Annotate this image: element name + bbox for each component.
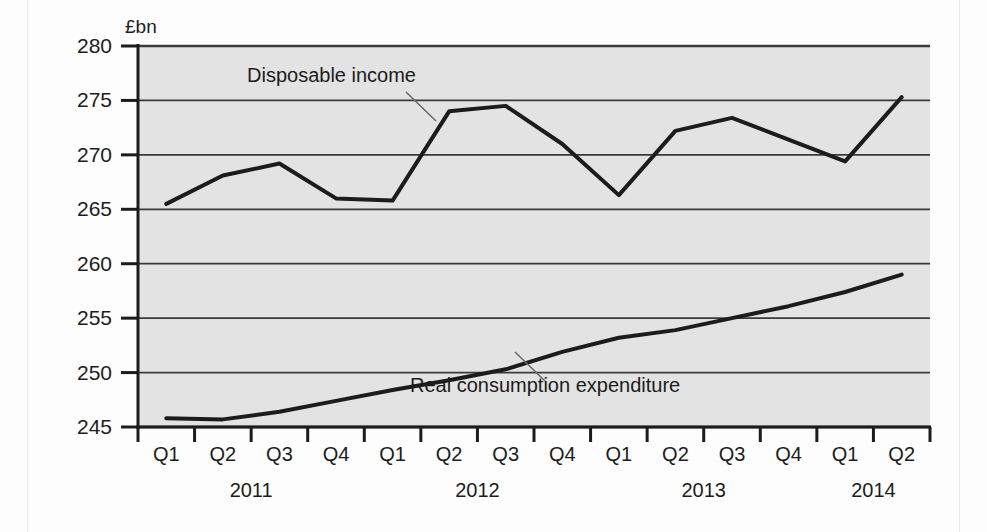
- y-axis-tick-label: 275: [77, 88, 112, 111]
- chart-page: 245250255260265270275280 £bn Q1Q2Q3Q4Q1Q…: [0, 0, 987, 532]
- annotation-label: Real consumption expenditure: [410, 374, 680, 396]
- x-axis-quarter-label: Q2: [210, 443, 237, 465]
- y-axis-tick-label: 255: [77, 306, 112, 329]
- x-axis-year-label: 2011: [230, 479, 273, 501]
- y-axis-unit-label: £bn: [125, 16, 157, 37]
- x-axis-quarter-label: Q1: [832, 443, 859, 465]
- y-axis-tick-label: 265: [77, 197, 112, 220]
- x-axis-year-labels: 2011201220132014: [230, 479, 896, 501]
- x-axis-quarter-label: Q1: [606, 443, 633, 465]
- x-axis-quarter-label: Q2: [662, 443, 689, 465]
- x-axis-quarter-labels: Q1Q2Q3Q4Q1Q2Q3Q4Q1Q2Q3Q4Q1Q2: [153, 443, 915, 465]
- x-axis-quarter-label: Q2: [888, 443, 915, 465]
- x-axis-quarter-label: Q1: [379, 443, 406, 465]
- x-axis-quarter-label: Q4: [775, 443, 802, 465]
- y-axis-tick-label: 245: [77, 415, 112, 438]
- x-axis-quarter-label: Q3: [492, 443, 519, 465]
- x-axis-year-label: 2013: [681, 479, 726, 501]
- x-axis-quarter-label: Q1: [153, 443, 180, 465]
- y-axis-tick-label: 250: [77, 361, 112, 384]
- x-axis-ticks: [138, 427, 930, 442]
- x-axis-quarter-label: Q4: [549, 443, 576, 465]
- annotation-label: Disposable income: [247, 64, 416, 86]
- y-axis-tick-labels: 245250255260265270275280: [77, 34, 112, 438]
- x-axis-quarter-label: Q3: [719, 443, 746, 465]
- x-axis-year-label: 2012: [455, 479, 500, 501]
- x-axis-quarter-label: Q4: [323, 443, 350, 465]
- x-axis-quarter-label: Q2: [436, 443, 463, 465]
- x-axis-year-label: 2014: [851, 479, 896, 501]
- x-axis-quarter-label: Q3: [266, 443, 293, 465]
- y-axis-tick-label: 270: [77, 143, 112, 166]
- y-axis-tick-label: 260: [77, 252, 112, 275]
- y-axis-ticks: [121, 46, 138, 427]
- disposable-income-vs-consumption-chart: 245250255260265270275280 £bn Q1Q2Q3Q4Q1Q…: [0, 0, 987, 532]
- y-axis-tick-label: 280: [77, 34, 112, 57]
